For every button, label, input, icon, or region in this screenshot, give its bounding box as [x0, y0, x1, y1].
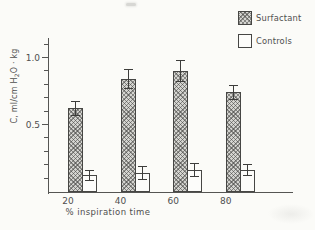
- y-axis-title-subscript: 2: [13, 73, 20, 77]
- x-tick-label: 40: [109, 196, 133, 206]
- y-tick-label: 1.0: [24, 53, 40, 63]
- surfactant-bar: [121, 79, 136, 193]
- error-bar: [180, 60, 181, 81]
- y-tick: [44, 178, 49, 179]
- legend: Surfactant Controls: [238, 11, 301, 57]
- y-tick: [42, 57, 48, 58]
- legend-item-surfactant: Surfactant: [238, 11, 301, 25]
- error-bar: [89, 170, 90, 181]
- error-bar: [233, 86, 234, 99]
- y-tick: [44, 151, 49, 152]
- open-swatch-icon: [238, 34, 252, 48]
- error-bar: [247, 165, 248, 176]
- error-bar-cap-bottom: [243, 175, 252, 176]
- y-tick: [44, 44, 49, 45]
- error-bar-cap-bottom: [190, 176, 199, 177]
- y-tick-label: 0.5: [24, 120, 40, 130]
- error-bar-cap-top: [229, 85, 238, 86]
- y-axis-title-pre: C, ml/cm H: [10, 77, 19, 123]
- error-bar-cap-top: [243, 164, 252, 165]
- surfactant-bar: [173, 71, 188, 193]
- scan-artifact-smudge: [126, 3, 136, 6]
- error-bar: [194, 163, 195, 176]
- x-axis-title: % inspiration time: [66, 207, 151, 217]
- error-bar: [75, 102, 76, 115]
- bar-chart-figure: C, ml/cm H2O · kg % inspiration time Sur…: [0, 0, 315, 230]
- y-axis: [48, 38, 49, 194]
- error-bar-cap-bottom: [124, 88, 133, 89]
- y-tick: [42, 124, 48, 125]
- scan-artifact-haze: [268, 204, 314, 224]
- error-bar-cap-bottom: [85, 180, 94, 181]
- x-tick-label: 20: [56, 196, 80, 206]
- error-bar-cap-bottom: [71, 115, 80, 116]
- error-bar-cap-top: [85, 170, 94, 171]
- surfactant-bar: [68, 108, 83, 192]
- error-bar-cap-top: [176, 60, 185, 61]
- hatched-swatch-icon: [238, 11, 252, 25]
- y-tick: [44, 164, 49, 165]
- error-bar: [128, 70, 129, 89]
- x-tick-label: 60: [161, 196, 185, 206]
- legend-item-controls: Controls: [238, 34, 301, 48]
- error-bar-cap-bottom: [176, 81, 185, 82]
- error-bar-cap-top: [190, 163, 199, 164]
- legend-label-controls: Controls: [256, 36, 292, 46]
- y-tick: [44, 70, 49, 71]
- y-axis-title: C, ml/cm H2O · kg: [10, 48, 21, 123]
- y-axis-title-post: O · kg: [10, 48, 19, 73]
- x-tick-label: 80: [214, 196, 238, 206]
- error-bar-cap-top: [124, 69, 133, 70]
- y-tick: [44, 111, 49, 112]
- error-bar-cap-top: [71, 101, 80, 102]
- error-bar-cap-bottom: [138, 179, 147, 180]
- surfactant-bar: [226, 92, 241, 192]
- legend-label-surfactant: Surfactant: [256, 13, 301, 23]
- error-bar-cap-top: [138, 166, 147, 167]
- error-bar: [142, 166, 143, 179]
- y-tick: [44, 84, 49, 85]
- y-tick: [44, 97, 49, 98]
- error-bar-cap-bottom: [229, 99, 238, 100]
- y-tick: [44, 137, 49, 138]
